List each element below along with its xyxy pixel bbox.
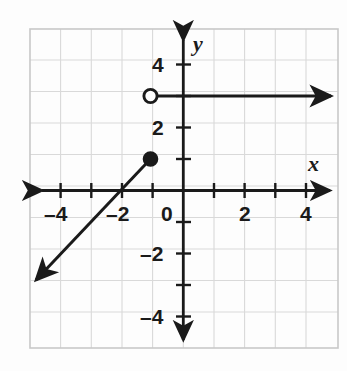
y-axis-label: y <box>193 33 203 55</box>
x-tick-label-4: 4 <box>300 203 312 224</box>
open-circle-marker <box>144 89 157 102</box>
graph-canvas <box>0 0 347 371</box>
x-tick-label-origin: 0 <box>161 203 173 224</box>
x-axis-label: x <box>308 153 319 175</box>
x-tick-label-neg4: –4 <box>44 203 67 224</box>
x-tick-label-neg2: –2 <box>106 203 129 224</box>
x-tick-label-2: 2 <box>239 203 251 224</box>
y-tick-label-neg2: –2 <box>140 243 163 264</box>
y-tick-label-4: 4 <box>152 54 164 75</box>
y-tick-label-2: 2 <box>152 117 164 138</box>
y-tick-label-neg4: –4 <box>140 306 163 327</box>
coordinate-graph-figure: –4 –2 0 2 4 4 2 –2 –4 y x <box>0 0 347 371</box>
closed-circle-marker <box>144 152 158 166</box>
